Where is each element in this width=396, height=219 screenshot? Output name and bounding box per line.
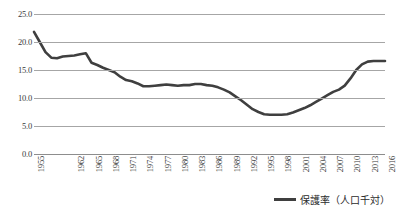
line-chart: 25.020.015.010.05.00.0 19551962196519681… <box>0 0 396 219</box>
x-axis-tick-label: 1995 <box>267 156 276 172</box>
x-axis-tick-label: 2007 <box>336 156 345 172</box>
x-axis-tick-label: 1983 <box>198 156 207 172</box>
gridline <box>34 42 385 43</box>
y-axis-tick-label: 10.0 <box>2 94 32 103</box>
x-axis-tick-label: 1980 <box>181 156 190 172</box>
x-axis-tick-label: 2004 <box>319 156 328 172</box>
x-axis-tick-label: 1974 <box>146 156 155 172</box>
y-axis-tick-label: 0.0 <box>2 150 32 159</box>
x-axis-tick-label: 2013 <box>371 156 380 172</box>
x-axis-tick-label: 1998 <box>284 156 293 172</box>
x-axis-tick-label: 1971 <box>129 156 138 172</box>
series-line-protection-rate <box>34 32 385 115</box>
legend-entry: 保護率（人口千対） <box>274 192 390 207</box>
plot-area <box>34 14 385 154</box>
legend-label: 保護率（人口千対） <box>300 192 390 207</box>
y-axis-tick-label: 25.0 <box>2 10 32 19</box>
y-axis-tick-label: 15.0 <box>2 66 32 75</box>
x-axis-tick-label: 1965 <box>95 156 104 172</box>
gridline <box>34 126 385 127</box>
y-axis-tick-label: 20.0 <box>2 38 32 47</box>
gridline <box>34 154 385 155</box>
x-axis-tick-label: 1977 <box>164 156 173 172</box>
x-axis-tick-label: 1986 <box>215 156 224 172</box>
series-layer <box>34 14 385 154</box>
x-axis-tick-label: 1989 <box>233 156 242 172</box>
gridline <box>34 98 385 99</box>
gridline <box>34 70 385 71</box>
y-axis: 25.020.015.010.05.00.0 <box>0 0 32 219</box>
x-axis-tick-label: 2010 <box>353 156 362 172</box>
x-axis-tick-label: 1968 <box>112 156 121 172</box>
x-axis-tick-label: 1962 <box>77 156 86 172</box>
x-axis-tick-label: 2001 <box>302 156 311 172</box>
y-axis-tick-label: 5.0 <box>2 122 32 131</box>
gridline <box>34 14 385 15</box>
x-axis-tick-label: 1955 <box>37 156 46 172</box>
x-axis-tick-label: 2016 <box>388 156 396 172</box>
legend-swatch-protection-rate <box>274 198 296 201</box>
x-axis-tick-label: 1992 <box>250 156 259 172</box>
legend: 保護率（人口千対） <box>0 190 390 208</box>
